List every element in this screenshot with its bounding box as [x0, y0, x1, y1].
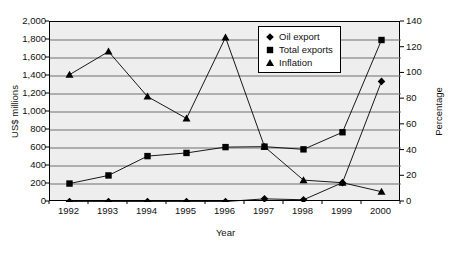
- y-axis-left-title: US$ millions: [9, 67, 20, 157]
- x-axis-tick-label: 2000: [358, 205, 404, 216]
- x-axis-title: Year: [0, 227, 451, 238]
- square-marker-icon: [263, 43, 277, 56]
- legend-item-label: Oil export: [279, 31, 320, 42]
- legend: Oil exportTotal exportsInflation: [258, 26, 341, 73]
- legend-item: Inflation: [263, 56, 333, 69]
- x-axis-tick-labels: 199219931994199519961997199819992000: [0, 0, 451, 253]
- chart-container: 02004006008001,0001,2001,4001,6001,8002,…: [0, 0, 451, 253]
- legend-item: Total exports: [263, 43, 333, 56]
- y-axis-right-title: Percentage: [433, 67, 444, 157]
- legend-item-label: Inflation: [279, 57, 312, 68]
- legend-item-label: Total exports: [279, 44, 333, 55]
- legend-item: Oil export: [263, 30, 333, 43]
- triangle-marker-icon: [263, 56, 277, 69]
- diamond-marker-icon: [263, 30, 277, 43]
